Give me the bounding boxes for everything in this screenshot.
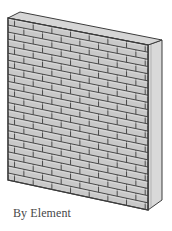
brick-wall-illustration — [0, 0, 172, 231]
caption-label: By Element — [13, 206, 71, 221]
wall-side-face — [148, 40, 162, 210]
